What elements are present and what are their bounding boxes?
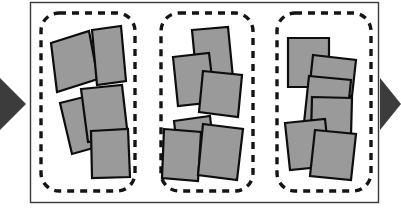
tile bbox=[310, 130, 356, 180]
diagram-svg bbox=[0, 0, 401, 208]
right-arrow-icon bbox=[380, 78, 401, 130]
left-arrow-icon bbox=[0, 78, 26, 130]
tile bbox=[162, 129, 201, 181]
diagram-canvas bbox=[0, 0, 401, 208]
tile bbox=[198, 124, 243, 180]
tile bbox=[92, 26, 126, 85]
tile bbox=[91, 129, 130, 178]
tile bbox=[199, 71, 242, 117]
